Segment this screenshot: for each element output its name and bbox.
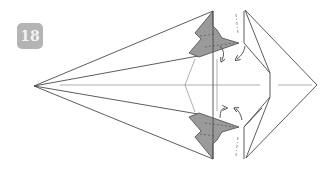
origami-diagram (0, 0, 336, 174)
arrow-lower-left-icon (220, 108, 225, 118)
arrow-lower-right-icon (236, 109, 242, 120)
fold-arrows (220, 46, 245, 120)
valley-crease (185, 59, 217, 112)
right-diamond-flap (244, 10, 317, 158)
arrow-upper-right-icon (237, 46, 245, 59)
